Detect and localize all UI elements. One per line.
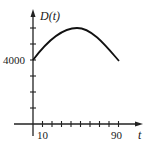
x-axis-label: t [138, 128, 142, 142]
chart-canvas: D(t) 4000 10 90 t [0, 0, 150, 148]
x-tick-label-10: 10 [37, 129, 49, 141]
x-axis-arrow-icon [135, 122, 143, 127]
y-tick-label-4000: 4000 [3, 54, 26, 66]
x-tick-label-90: 90 [111, 129, 123, 141]
y-axis-label: D(t) [39, 9, 60, 23]
y-axis-arrow-icon [31, 9, 36, 17]
chart: D(t) 4000 10 90 t [0, 0, 150, 148]
data-curve [33, 28, 119, 61]
